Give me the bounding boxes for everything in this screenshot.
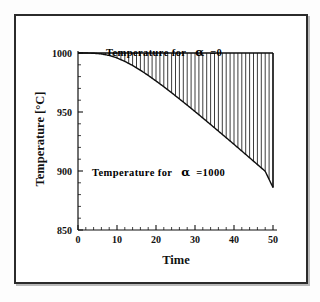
lower-annotation-text: Temperature for bbox=[92, 167, 172, 178]
x-axis-title: Time bbox=[78, 250, 274, 268]
alpha-symbol-icon: α bbox=[181, 165, 190, 179]
upper-annotation-text: Temperature for bbox=[106, 47, 186, 58]
lower-annotation-value: =1000 bbox=[196, 167, 225, 178]
upper-annotation-value: =0 bbox=[210, 47, 222, 58]
upper-curve-annotation: Temperature for α =0 bbox=[106, 42, 222, 60]
y-axis-title: Temperature [°C] bbox=[30, 69, 48, 209]
y-axis-title-label: Temperature [°C] bbox=[33, 92, 47, 187]
alpha-symbol-icon: α bbox=[195, 45, 204, 59]
lower-curve-annotation: Temperature for α =1000 bbox=[92, 162, 225, 180]
chart-screenshot: 010203040508509009501000 Temperature [°C… bbox=[0, 0, 320, 302]
x-axis-title-label: Time bbox=[162, 253, 190, 267]
